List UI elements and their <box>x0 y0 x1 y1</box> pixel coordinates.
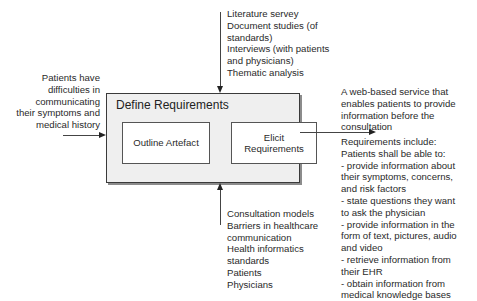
input-line: medical history <box>16 119 100 131</box>
input-line: Patients have <box>16 72 100 84</box>
output-summary-line: consultation <box>341 121 456 133</box>
requirements-line: - state questions they want <box>341 195 457 207</box>
requirements-line: to ask the physician <box>341 207 457 219</box>
controls-line: Literature servey <box>227 8 329 20</box>
elicit-requirements-label-1: Elicit <box>244 132 304 144</box>
requirements-line: - obtain information from <box>341 278 457 290</box>
controls-arrow-head-icon <box>217 86 223 93</box>
requirements-line: medical knowledge bases <box>341 289 457 301</box>
mechanisms-line: Patients <box>227 267 318 279</box>
requirements-line: and risk factors <box>341 183 457 195</box>
requirements-line: - provide information about <box>341 160 457 172</box>
controls-line: Thematic analysis <box>227 67 329 79</box>
input-line: difficulties in <box>16 84 100 96</box>
mechanisms-line: Health informatics <box>227 243 318 255</box>
mechanisms-arrow-line <box>220 190 221 225</box>
mechanisms-line: standards <box>227 255 318 267</box>
output-requirements-text: Requirements include: Patients shall be … <box>341 136 457 301</box>
output-summary-line: enables patients to provide <box>341 98 456 110</box>
requirements-line: - provide information in the <box>341 219 457 231</box>
requirements-line: and video <box>341 242 457 254</box>
mechanisms-text: Consultation models Barriers in healthca… <box>227 208 318 291</box>
requirements-line: their EHR <box>341 266 457 278</box>
mechanisms-line: Barriers in healthcare <box>227 220 318 232</box>
activity-title: Define Requirements <box>116 98 229 112</box>
controls-line: Document studies (of <box>227 20 329 32</box>
output-summary-text: A web-based service that enables patient… <box>341 86 456 133</box>
requirements-line: Patients shall be able to: <box>341 148 457 160</box>
elicit-requirements-box: Elicit Requirements <box>231 122 317 164</box>
controls-text: Literature servey Document studies (of s… <box>227 8 329 79</box>
outline-artefact-box: Outline Artefact <box>122 122 210 164</box>
controls-line: Interviews (with patients <box>227 43 329 55</box>
controls-line: and physicians) <box>227 55 329 67</box>
requirements-line: - retrieve information from <box>341 254 457 266</box>
define-requirements-box: Define Requirements Outline Artefact Eli… <box>106 93 300 183</box>
controls-line: standards) <box>227 32 329 44</box>
requirements-line: Requirements include: <box>341 136 457 148</box>
mechanisms-line: Consultation models <box>227 208 318 220</box>
input-line: communicating <box>16 96 100 108</box>
mechanisms-arrow-head-icon <box>217 183 223 190</box>
input-line: their symptoms and <box>16 107 100 119</box>
requirements-line: form of text, pictures, audio <box>341 230 457 242</box>
input-arrow-line <box>63 135 100 136</box>
controls-arrow-line <box>220 12 221 87</box>
output-summary-line: information before the <box>341 110 456 122</box>
mechanisms-line: Physicians <box>227 279 318 291</box>
input-arrow-head-icon <box>99 132 106 138</box>
outline-artefact-label: Outline Artefact <box>133 137 199 149</box>
elicit-requirements-label-2: Requirements <box>244 143 304 155</box>
output-summary-line: A web-based service that <box>341 86 456 98</box>
requirements-line: their symptoms, concerns, <box>341 171 457 183</box>
mechanisms-line: communication <box>227 232 318 244</box>
input-text: Patients have difficulties in communicat… <box>16 72 100 131</box>
